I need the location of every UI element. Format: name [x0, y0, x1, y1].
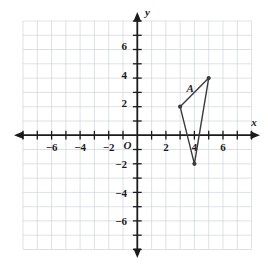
y-tick-label-4: 4: [122, 69, 128, 81]
y-tick-label-neg2: −2: [115, 158, 127, 170]
y-tick-label-6: 6: [122, 40, 128, 52]
y-tick-label-neg6: −6: [115, 215, 127, 227]
x-axis-label: x: [250, 116, 257, 128]
vertex-point-a: [178, 105, 182, 109]
x-tick-label-neg2: −2: [103, 141, 115, 153]
x-tick-label-2: 2: [163, 141, 169, 153]
y-tick-label-neg4: −4: [115, 187, 127, 199]
vertex-point-b: [207, 76, 211, 80]
vertex-label-a: A: [186, 82, 194, 94]
vertex-point-c: [192, 162, 196, 166]
y-tick-label-2: 2: [122, 97, 128, 109]
x-tick-label-6: 6: [220, 141, 226, 153]
y-axis-label: y: [143, 6, 150, 18]
x-tick-label-neg4: −4: [74, 141, 86, 153]
coordinate-plane-figure: −6 −4 −2 2 4 6 6 4 2 −2 −4 −6 O x y A: [0, 0, 268, 270]
origin-label: O: [124, 139, 132, 151]
coordinate-plane-svg: −6 −4 −2 2 4 6 6 4 2 −2 −4 −6 O x y A: [0, 0, 268, 270]
x-tick-label-neg6: −6: [46, 141, 58, 153]
